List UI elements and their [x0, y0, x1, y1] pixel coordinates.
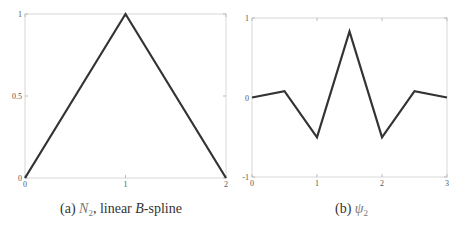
- axes-frame: [252, 18, 447, 177]
- caption-a-symbol: N: [79, 201, 88, 216]
- caption-b-prefix: (b): [335, 201, 355, 216]
- series-line: [25, 14, 226, 178]
- caption-b-subscript: 2: [364, 208, 369, 218]
- y-tick-label: 0: [245, 94, 249, 103]
- x-tick-label: 0: [250, 179, 254, 188]
- caption-a-suffix: -spline: [144, 201, 182, 216]
- caption-b: (b) ψ2: [335, 201, 368, 218]
- plot-a: 01200.51: [12, 10, 228, 189]
- plot-b: 0123-101: [242, 14, 449, 188]
- y-tick-label: 1: [245, 14, 249, 23]
- x-tick-label: 1: [315, 179, 319, 188]
- axes-frame: [25, 14, 226, 178]
- x-tick-label: 2: [224, 180, 228, 189]
- caption-a: (a) N2, linear B-spline: [60, 201, 182, 218]
- series-line: [252, 32, 447, 138]
- figure: 01200.510123-101: [0, 0, 464, 230]
- caption-a-prefix: (a): [60, 201, 79, 216]
- y-tick-label: 1: [18, 10, 22, 19]
- x-tick-label: 2: [380, 179, 384, 188]
- caption-a-middle: , linear: [93, 201, 135, 216]
- caption-b-symbol: ψ: [355, 201, 364, 216]
- caption-a-italic: B: [135, 201, 144, 216]
- y-tick-label: -1: [242, 173, 249, 182]
- y-tick-label: 0: [18, 174, 22, 183]
- x-tick-label: 3: [445, 179, 449, 188]
- x-tick-label: 0: [23, 180, 27, 189]
- y-tick-label: 0.5: [12, 92, 22, 101]
- x-tick-label: 1: [124, 180, 128, 189]
